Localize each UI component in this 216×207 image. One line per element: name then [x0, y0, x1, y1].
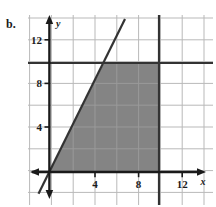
figure-container: b. [0, 0, 216, 207]
x-tick-label-8: 8 [136, 178, 142, 190]
y-tick-label-12: 12 [31, 34, 43, 46]
x-tick-label-12: 12 [177, 178, 189, 190]
y-tick-label-8: 8 [37, 77, 43, 89]
y-axis-name-label: y [55, 18, 61, 29]
coordinate-graph: 12 8 4 4 8 12 y x [28, 15, 213, 205]
graph-svg: 12 8 4 4 8 12 y x [28, 15, 213, 205]
y-tick-label-4: 4 [37, 121, 43, 133]
part-label: b. [6, 17, 16, 32]
x-tick-label-4: 4 [92, 178, 98, 190]
x-axis-name-label: x [200, 176, 206, 187]
